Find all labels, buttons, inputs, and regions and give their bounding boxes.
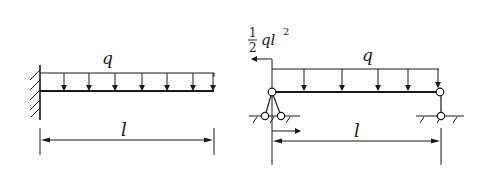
fraction-numerator: 1 [249,26,257,40]
roller-support-icon [416,88,464,123]
moment-exponent: 2 [283,26,289,37]
cantilever-figure: q l [30,48,214,155]
load-label-q: q [362,45,373,65]
beam-diagram-svg: q l 1 2 ql 2 [0,0,486,175]
distributed-load-arrows [272,69,439,90]
diagram-canvas: q l 1 2 ql 2 [0,0,486,175]
fraction-denominator: 2 [249,41,257,55]
pinned-support-icon [249,88,300,131]
moment-label: 1 2 ql 2 [248,26,289,55]
span-dimension [40,128,214,155]
moment-expression: ql [261,31,276,49]
fixed-wall-support-icon [30,65,40,120]
span-label-l: l [354,120,360,141]
simply-supported-figure: 1 2 ql 2 q [248,26,464,165]
span-label-l: l [121,119,127,140]
distributed-load-arrows [40,73,214,90]
moment-arrow-icon [252,59,272,92]
load-label-q: q [102,48,113,68]
